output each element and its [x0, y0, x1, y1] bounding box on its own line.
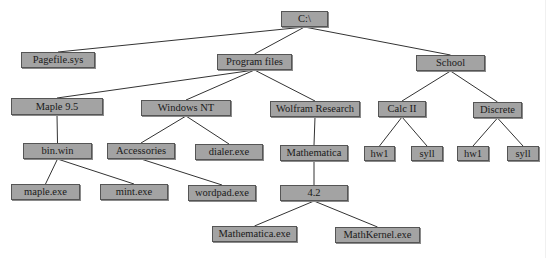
- edge-calcii-calc_syll: [402, 117, 427, 146]
- tree-node-binwin[interactable]: bin.win: [23, 143, 92, 159]
- edge-calcii-calc_hw1: [380, 117, 403, 146]
- edge-binwin-mintexe: [58, 159, 135, 184]
- edge-accessories-wordpad: [141, 159, 222, 185]
- tree-node-dialer[interactable]: dialer.exe: [195, 144, 263, 160]
- edge-programfiles-wolfram: [255, 70, 316, 101]
- edge-windowsnt-dialer: [186, 116, 229, 144]
- tree-node-mintexe[interactable]: mint.exe: [100, 184, 168, 200]
- edge-root-pagefile: [58, 27, 305, 52]
- tree-node-discrete[interactable]: Discrete: [473, 102, 522, 118]
- edge-school-calcii: [402, 71, 451, 101]
- tree-node-calc_syll[interactable]: syll: [411, 146, 443, 161]
- tree-node-mathematicaexe[interactable]: Mathematica.exe: [212, 226, 297, 242]
- tree-node-programfiles[interactable]: Program files: [217, 54, 292, 70]
- tree-node-accessories[interactable]: Accessories: [107, 143, 175, 159]
- tree-node-wordpad[interactable]: wordpad.exe: [188, 185, 256, 201]
- edge-discrete-disc_syll: [498, 118, 524, 146]
- tree-node-disc_hw1[interactable]: hw1: [457, 146, 489, 161]
- edge-v42-mathkernel: [314, 201, 378, 227]
- edge-binwin-mapleexe: [46, 159, 58, 184]
- tree-edges: [0, 0, 551, 258]
- tree-node-calc_hw1[interactable]: hw1: [364, 146, 395, 161]
- directory-tree-diagram: C:\Pagefile.sysProgram filesSchoolMaple …: [0, 0, 551, 258]
- page-edge-line: [545, 0, 546, 258]
- tree-node-wolfram[interactable]: Wolfram Research: [270, 101, 360, 117]
- edge-discrete-disc_hw1: [473, 118, 498, 146]
- tree-node-maple95[interactable]: Maple 9.5: [11, 98, 103, 115]
- tree-node-mathematica[interactable]: Mathematica: [280, 145, 348, 161]
- tree-node-mathkernel[interactable]: MathKernel.exe: [335, 227, 420, 243]
- tree-node-mapleexe[interactable]: maple.exe: [11, 184, 80, 200]
- tree-node-disc_syll[interactable]: syll: [507, 146, 539, 161]
- tree-node-windowsnt[interactable]: Windows NT: [141, 100, 231, 116]
- tree-node-v42[interactable]: 4.2: [280, 185, 348, 201]
- edge-school-discrete: [451, 71, 498, 102]
- edge-v42-mathematicaexe: [255, 201, 315, 226]
- tree-node-calcii[interactable]: Calc II: [378, 101, 426, 117]
- edge-maple95-binwin: [57, 115, 58, 143]
- edge-wolfram-mathematica: [314, 117, 315, 145]
- edge-programfiles-maple95: [57, 70, 255, 98]
- tree-node-pagefile[interactable]: Pagefile.sys: [21, 52, 95, 68]
- edge-windowsnt-accessories: [141, 116, 186, 143]
- tree-node-school[interactable]: School: [416, 55, 485, 71]
- edge-root-school: [305, 27, 451, 55]
- tree-node-root[interactable]: C:\: [281, 11, 328, 27]
